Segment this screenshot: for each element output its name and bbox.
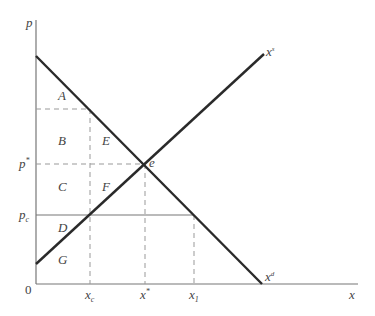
x-axis-label: x — [348, 287, 355, 302]
demand-label: xd — [264, 269, 275, 284]
region-b: B — [58, 133, 66, 148]
equilibrium-label: e — [149, 155, 155, 170]
region-a: A — [57, 88, 66, 103]
origin-label: 0 — [25, 282, 32, 297]
y-axis-label: p — [25, 15, 33, 30]
x-1-label: x1 — [188, 287, 199, 304]
region-g: G — [58, 252, 68, 267]
x-star-label: x* — [139, 287, 150, 302]
region-f: F — [101, 179, 111, 194]
region-e: E — [101, 133, 110, 148]
demand-curve — [36, 56, 262, 284]
supply-demand-diagram: p x 0 xs xd p* pc xc x* x1 e A B E C F D… — [0, 0, 375, 316]
x-c-label: xc — [84, 287, 95, 304]
supply-label: xs — [265, 44, 275, 59]
region-d: D — [57, 220, 68, 235]
p-c-label: pc — [18, 207, 30, 224]
region-c: C — [58, 179, 67, 194]
p-star-label: p* — [18, 156, 30, 171]
